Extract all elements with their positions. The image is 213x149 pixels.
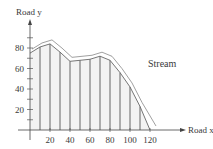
x-tick-label: 60: [86, 135, 96, 145]
y-axis-arrow-icon: [28, 19, 32, 25]
x-tick-label: 40: [66, 135, 76, 145]
y-tick-labels: 20406080: [15, 43, 25, 115]
x-axis-label: Road x: [188, 125, 213, 135]
y-tick-label: 60: [15, 64, 25, 74]
y-axis-label: Road y: [16, 7, 42, 17]
stream-label: Stream: [148, 58, 177, 69]
x-tick-label: 100: [123, 135, 137, 145]
x-tick-label: 20: [46, 135, 56, 145]
x-axis-arrow-icon: [180, 128, 186, 132]
x-tick-label: 80: [106, 135, 116, 145]
x-tick-labels: 20406080100120: [46, 135, 158, 145]
y-tick-label: 20: [15, 105, 25, 115]
y-tick-label: 40: [15, 84, 25, 94]
x-tick-label: 120: [143, 135, 157, 145]
stream-area-chart: Road y Road x Stream 20406080100120 2040…: [0, 0, 213, 149]
y-tick-label: 80: [15, 43, 25, 53]
